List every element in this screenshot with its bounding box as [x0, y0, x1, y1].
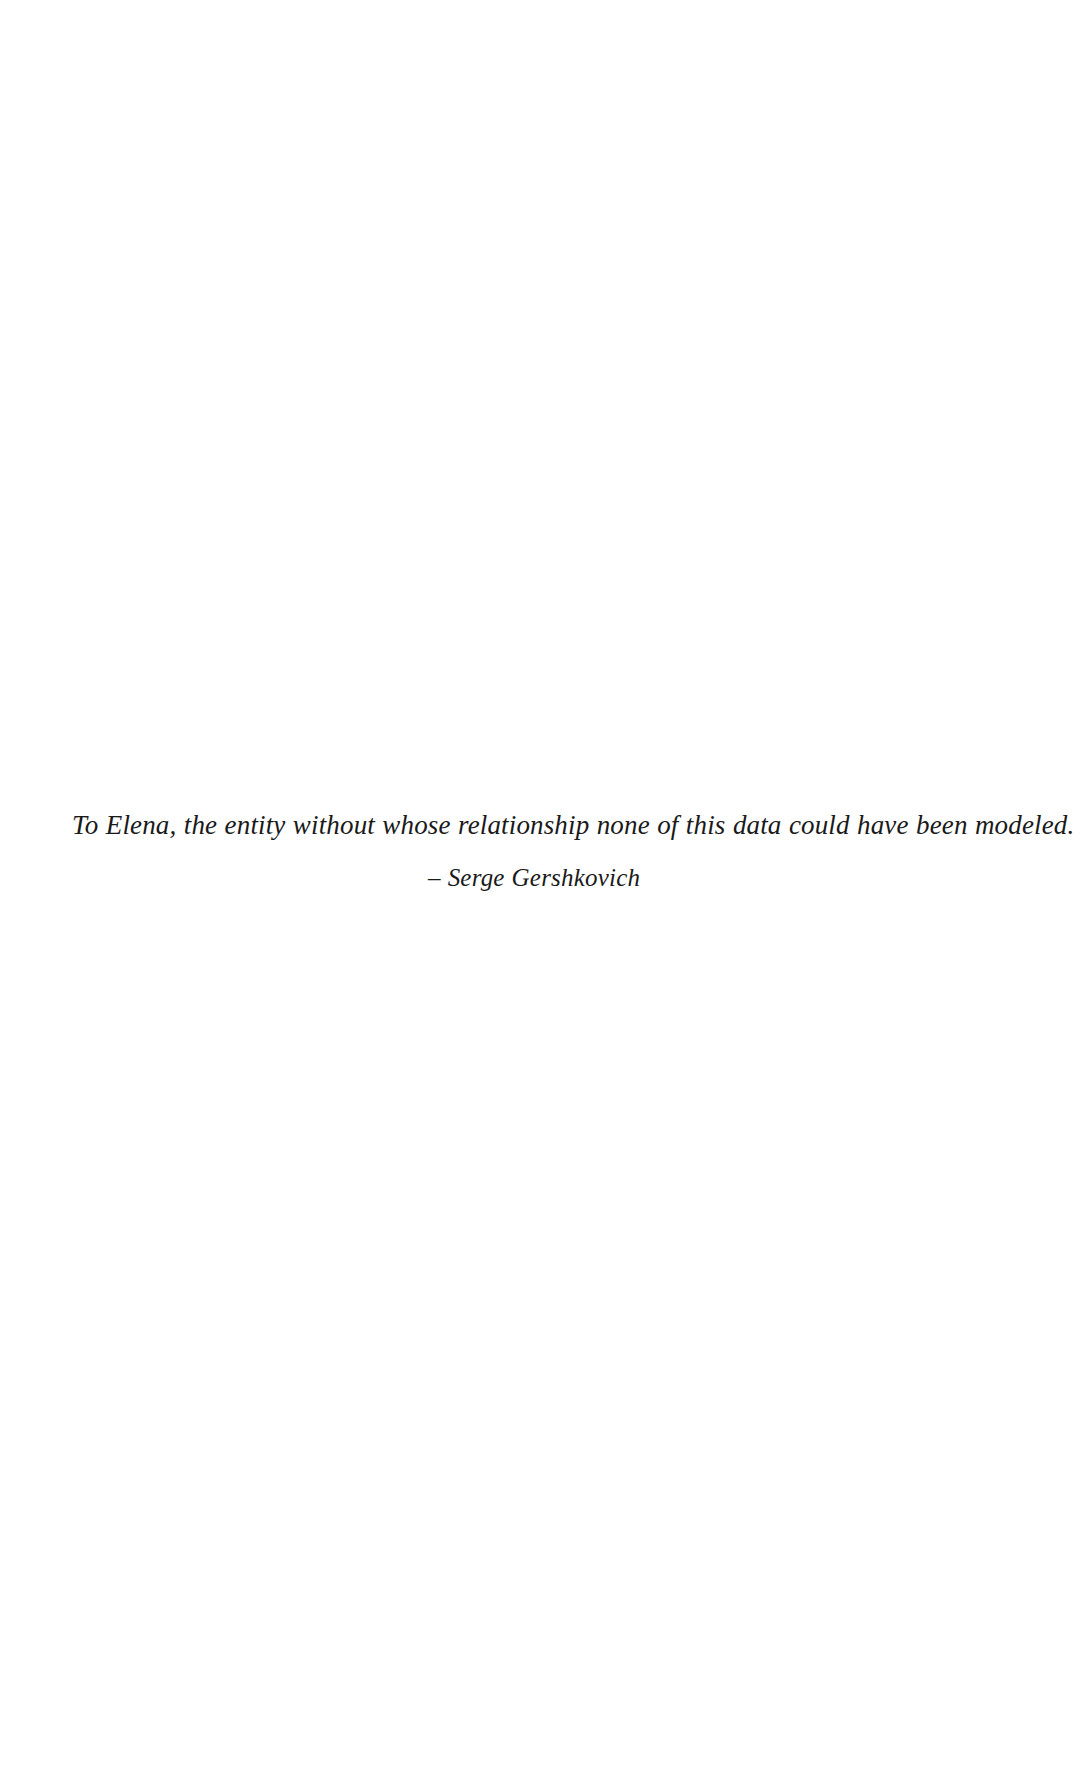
- dedication-text: To Elena, the entity without whose relat…: [72, 806, 1017, 844]
- dedication-block: To Elena, the entity without whose relat…: [0, 806, 1089, 896]
- dedication-page: To Elena, the entity without whose relat…: [0, 0, 1089, 1775]
- dedication-attribution: – Serge Gershkovich: [428, 860, 640, 896]
- attribution-line: – Serge Gershkovich: [72, 844, 1017, 896]
